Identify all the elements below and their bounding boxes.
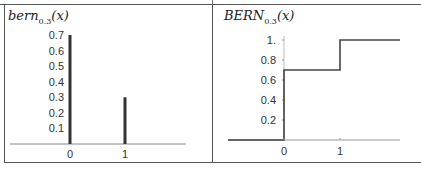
pmf-bar bbox=[124, 97, 127, 144]
cdf-y-tick-label: 0.4 bbox=[261, 94, 276, 106]
pmf-bar bbox=[69, 35, 72, 144]
cdf-step-line bbox=[228, 40, 400, 140]
cdf-y-tick-label: 0.8 bbox=[261, 54, 276, 66]
pmf-y-tick-label: 0.1 bbox=[49, 122, 64, 134]
cdf-y-tick-label: 1. bbox=[267, 34, 276, 46]
pmf-x-tick-label: 0 bbox=[67, 148, 73, 160]
pmf-y-tick-label: 0.6 bbox=[49, 45, 64, 57]
cdf-x-tick-label: 1 bbox=[337, 145, 343, 157]
charts-canvas: 0.10.20.30.40.50.60.7010.20.40.60.81.01 bbox=[0, 0, 421, 169]
figure-frame: bern0.3(x) BERN0.3(x) 0.10.20.30.40.50.6… bbox=[0, 0, 421, 169]
pmf-x-tick-label: 1 bbox=[122, 148, 128, 160]
pmf-y-tick-label: 0.3 bbox=[49, 91, 64, 103]
pmf-y-tick-label: 0.5 bbox=[49, 60, 64, 72]
cdf-y-tick-label: 0.6 bbox=[261, 74, 276, 86]
cdf-x-tick-label: 0 bbox=[281, 145, 287, 157]
pmf-y-tick-label: 0.4 bbox=[49, 76, 64, 88]
pmf-y-tick-label: 0.2 bbox=[49, 107, 64, 119]
cdf-y-tick-label: 0.2 bbox=[261, 114, 276, 126]
pmf-y-tick-label: 0.7 bbox=[49, 29, 64, 41]
